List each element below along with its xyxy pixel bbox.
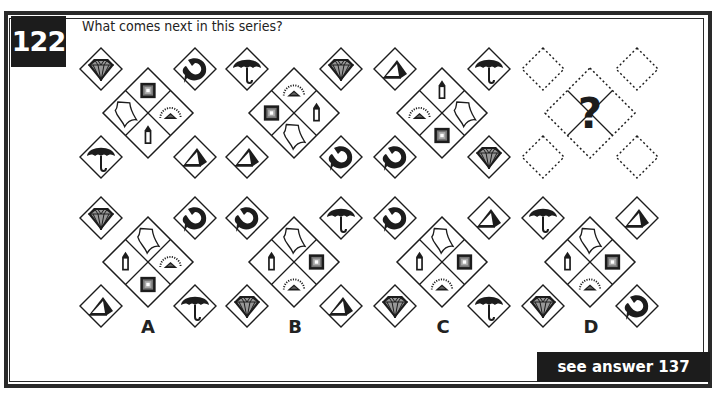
series-figure-3 (372, 43, 512, 183)
nested-square-icon (605, 254, 620, 269)
puzzle-number: 122 (11, 16, 66, 67)
question-mark-icon: ? (578, 89, 602, 138)
series-figure-unknown: ? (520, 43, 660, 183)
nested-square-icon (309, 254, 324, 269)
option-d-figure[interactable] (520, 192, 660, 332)
option-c-figure[interactable] (372, 192, 512, 332)
option-b-figure[interactable] (224, 192, 364, 332)
see-answer-bar: see answer 137 (537, 352, 710, 382)
series-figure-2 (224, 43, 364, 183)
nested-square-icon (457, 254, 472, 269)
option-c-label[interactable]: C (428, 316, 458, 337)
option-d-label[interactable]: D (576, 316, 606, 337)
nested-square-icon (434, 128, 449, 143)
series-figure-1 (78, 43, 218, 183)
question-text: What comes next in this series? (82, 18, 283, 34)
option-a-figure[interactable] (78, 192, 218, 332)
nested-square-icon (264, 105, 279, 120)
nested-square-icon (140, 83, 155, 98)
option-a-label[interactable]: A (133, 316, 163, 337)
nested-square-icon (140, 277, 155, 292)
option-b-label[interactable]: B (280, 316, 310, 337)
